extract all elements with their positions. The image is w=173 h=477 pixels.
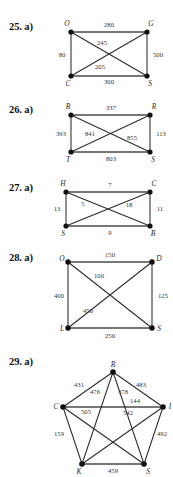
vertex-label-B: B (111, 360, 116, 369)
vertex-B (110, 369, 116, 375)
weight-C-K: 159 (54, 430, 65, 437)
vertex-label-S: S (146, 467, 150, 476)
weight-B-I: 483 (136, 381, 147, 388)
textbook-page: 25. a) O G C S 280 80 500 300 245 205 26… (0, 0, 173, 477)
weight-B-K: 476 (90, 388, 101, 395)
vertex-I (160, 404, 166, 410)
weight-B-S: 378 (118, 388, 129, 395)
weight-C-B: 431 (74, 381, 84, 388)
weight-C-I: 144 (130, 397, 141, 404)
weight-K-S: 459 (108, 467, 119, 474)
vertex-label-I: I (168, 402, 172, 411)
problem-29: 29. a) B I S K C 431 483 144 476 (0, 0, 173, 477)
edge-B-K (82, 372, 113, 464)
weight-I-K: 542 (123, 409, 133, 416)
edge-C-K (63, 407, 82, 464)
problem-29-graph: B I S K C 431 483 144 476 378 505 542 15… (0, 0, 173, 477)
weight-I-S: 492 (157, 430, 167, 437)
vertex-K (79, 461, 85, 467)
vertex-label-C: C (54, 402, 59, 411)
vertex-S (141, 461, 147, 467)
weight-C-S: 505 (81, 408, 92, 415)
vertex-C (60, 404, 66, 410)
edge-C-B (63, 372, 113, 407)
vertex-label-K: K (76, 467, 83, 476)
